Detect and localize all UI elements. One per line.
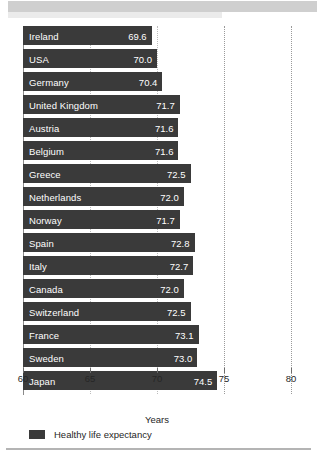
x-tick-label-60: 60 bbox=[18, 373, 29, 384]
bar-value-label: 69.6 bbox=[128, 30, 147, 41]
bar-category-label: Austria bbox=[29, 122, 59, 133]
top-decorative-band-secondary bbox=[8, 12, 222, 18]
bar-value-label: 70.4 bbox=[139, 76, 158, 87]
bar-value-label: 70.0 bbox=[134, 53, 153, 64]
bar-austria[interactable]: Austria71.6 bbox=[23, 118, 178, 137]
bar-netherlands[interactable]: Netherlands72.0 bbox=[23, 187, 184, 206]
bar-france[interactable]: France73.1 bbox=[23, 325, 199, 344]
bar-switzerland[interactable]: Switzerland72.5 bbox=[23, 302, 191, 321]
bar-row: Switzerland72.5 bbox=[23, 302, 291, 321]
bar-row: Spain72.8 bbox=[23, 233, 291, 252]
bar-value-label: 72.0 bbox=[160, 283, 179, 294]
chart-figure: Ireland69.6USA70.0Germany70.4United King… bbox=[0, 0, 317, 457]
top-decorative-band bbox=[8, 1, 317, 12]
bar-value-label: 71.6 bbox=[155, 122, 174, 133]
gridline-80 bbox=[291, 26, 293, 394]
x-tick-label-65: 65 bbox=[85, 373, 96, 384]
x-tick-mark-65 bbox=[90, 368, 91, 373]
bar-category-label: Canada bbox=[29, 283, 63, 294]
bar-value-label: 73.0 bbox=[174, 352, 193, 363]
bar-value-label: 73.1 bbox=[175, 329, 194, 340]
bar-value-label: 72.5 bbox=[167, 306, 186, 317]
x-tick-label-70: 70 bbox=[152, 373, 163, 384]
bar-category-label: Greece bbox=[29, 168, 61, 179]
bar-value-label: 71.6 bbox=[155, 145, 174, 156]
bar-belgium[interactable]: Belgium71.6 bbox=[23, 141, 178, 160]
bar-category-label: Germany bbox=[29, 76, 69, 87]
bar-united-kingdom[interactable]: United Kingdom71.7 bbox=[23, 95, 180, 114]
bar-value-label: 72.0 bbox=[160, 191, 179, 202]
bar-row: USA70.0 bbox=[23, 49, 291, 68]
bar-ireland[interactable]: Ireland69.6 bbox=[23, 26, 152, 45]
bar-category-label: Switzerland bbox=[29, 306, 79, 317]
bar-row: Netherlands72.0 bbox=[23, 187, 291, 206]
plot-area: Ireland69.6USA70.0Germany70.4United King… bbox=[23, 26, 291, 394]
x-tick-mark-70 bbox=[157, 368, 158, 373]
chart-legend: Healthy life expectancy bbox=[29, 429, 152, 440]
bar-category-label: Italy bbox=[29, 260, 47, 271]
bar-category-label: Sweden bbox=[29, 352, 64, 363]
legend-swatch-healthy-life-expectancy bbox=[29, 430, 45, 439]
bar-germany[interactable]: Germany70.4 bbox=[23, 72, 162, 91]
legend-label-healthy-life-expectancy: Healthy life expectancy bbox=[54, 429, 152, 440]
bar-value-label: 71.7 bbox=[156, 214, 175, 225]
bar-row: Canada72.0 bbox=[23, 279, 291, 298]
bar-row: Sweden73.0 bbox=[23, 348, 291, 367]
bar-category-label: Norway bbox=[29, 214, 62, 225]
bar-row: Norway71.7 bbox=[23, 210, 291, 229]
bar-row: Belgium71.6 bbox=[23, 141, 291, 160]
bar-value-label: 72.7 bbox=[170, 260, 189, 271]
bar-category-label: Spain bbox=[29, 237, 54, 248]
bar-usa[interactable]: USA70.0 bbox=[23, 49, 157, 68]
x-tick-mark-60 bbox=[23, 368, 24, 373]
bar-row: United Kingdom71.7 bbox=[23, 95, 291, 114]
bar-category-label: Belgium bbox=[29, 145, 64, 156]
x-tick-label-75: 75 bbox=[219, 373, 230, 384]
bar-canada[interactable]: Canada72.0 bbox=[23, 279, 184, 298]
x-tick-mark-80 bbox=[291, 368, 292, 373]
bar-row: Ireland69.6 bbox=[23, 26, 291, 45]
x-tick-label-80: 80 bbox=[286, 373, 297, 384]
bar-sweden[interactable]: Sweden73.0 bbox=[23, 348, 197, 367]
bar-category-label: France bbox=[29, 329, 59, 340]
x-axis-title: Years bbox=[23, 414, 291, 425]
bar-rows-group: Ireland69.6USA70.0Germany70.4United King… bbox=[23, 26, 291, 394]
bar-row: France73.1 bbox=[23, 325, 291, 344]
bar-value-label: 72.8 bbox=[171, 237, 190, 248]
bar-row: Germany70.4 bbox=[23, 72, 291, 91]
bottom-rule bbox=[6, 448, 311, 450]
bar-category-label: USA bbox=[29, 53, 49, 64]
bar-row: Italy72.7 bbox=[23, 256, 291, 275]
bar-greece[interactable]: Greece72.5 bbox=[23, 164, 191, 183]
x-axis-ticks: 6065707580 bbox=[0, 373, 317, 389]
bar-category-label: United Kingdom bbox=[29, 99, 98, 110]
bar-category-label: Ireland bbox=[29, 30, 59, 41]
bar-italy[interactable]: Italy72.7 bbox=[23, 256, 193, 275]
bar-value-label: 71.7 bbox=[156, 99, 175, 110]
bar-norway[interactable]: Norway71.7 bbox=[23, 210, 180, 229]
bar-category-label: Netherlands bbox=[29, 191, 81, 202]
bar-value-label: 72.5 bbox=[167, 168, 186, 179]
bar-row: Greece72.5 bbox=[23, 164, 291, 183]
x-tick-mark-75 bbox=[224, 368, 225, 373]
bar-row: Austria71.6 bbox=[23, 118, 291, 137]
bar-spain[interactable]: Spain72.8 bbox=[23, 233, 195, 252]
